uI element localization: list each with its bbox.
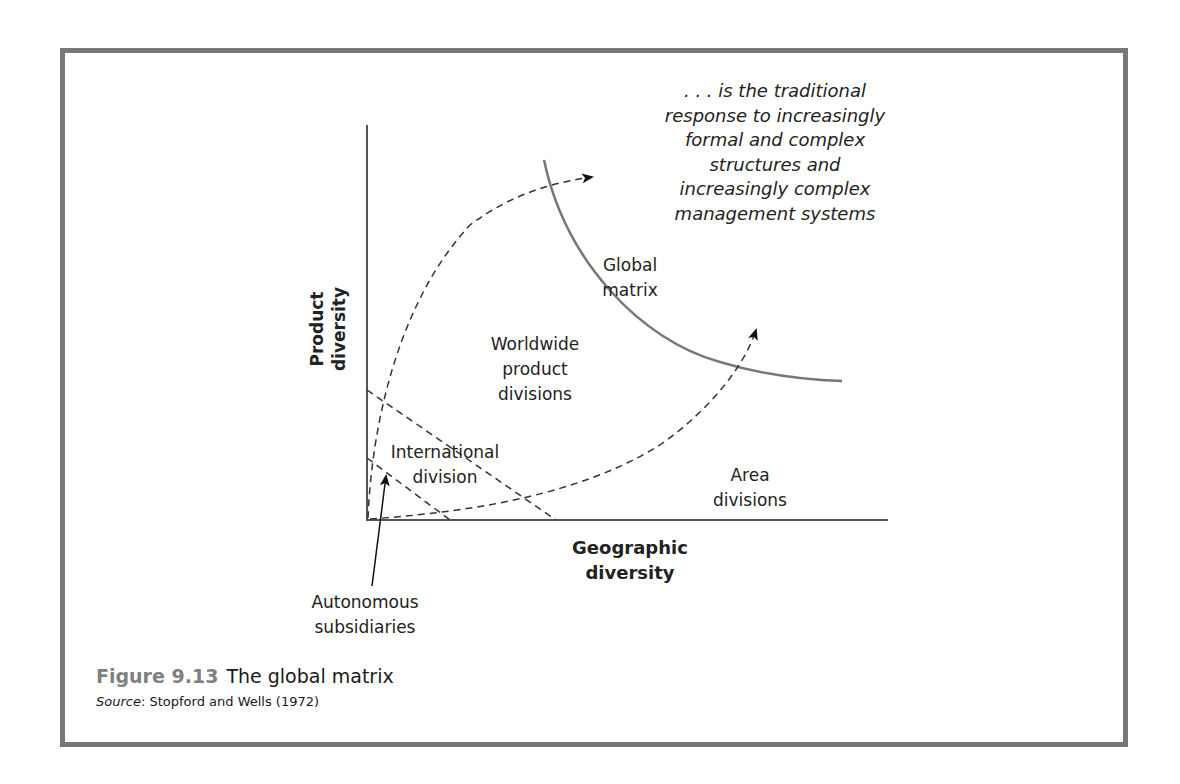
international-division-label: International division: [377, 440, 513, 490]
label-line: subsidiaries: [300, 615, 430, 640]
annotation-line: response to increasingly: [640, 104, 910, 129]
x-axis-label: Geographic diversity: [560, 535, 700, 585]
source-label: Source: [96, 694, 141, 709]
label-line: divisions: [470, 382, 600, 407]
area-divisions-label: Area divisions: [695, 463, 805, 513]
annotation-line: increasingly complex: [640, 177, 910, 202]
label-line: Product: [306, 266, 328, 392]
figure-source: Source: Stopford and Wells (1972): [96, 694, 319, 709]
figure-number: Figure 9.13: [96, 665, 218, 687]
label-line: Worldwide: [470, 332, 600, 357]
label-line: product: [470, 357, 600, 382]
label-line: divisions: [695, 488, 805, 513]
label-line: Autonomous: [300, 590, 430, 615]
label-line: Global: [580, 253, 680, 278]
label-line: Geographic: [560, 535, 700, 560]
annotation-line: formal and complex: [640, 128, 910, 153]
label-line: division: [377, 465, 513, 490]
label-line: diversity: [328, 266, 350, 392]
annotation-line: . . . is the traditional: [640, 79, 910, 104]
label-line: matrix: [580, 278, 680, 303]
label-line: Area: [695, 463, 805, 488]
label-line: diversity: [560, 560, 700, 585]
y-axis-label: Product diversity: [306, 266, 350, 392]
figure-caption: Figure 9.13The global matrix: [96, 665, 394, 687]
worldwide-product-divisions-label: Worldwide product divisions: [470, 332, 600, 407]
annotation-line: management systems: [640, 202, 910, 227]
global-matrix-label: Global matrix: [580, 253, 680, 303]
autonomous-subsidiaries-label: Autonomous subsidiaries: [300, 590, 430, 640]
source-text: : Stopford and Wells (1972): [141, 694, 319, 709]
autonomous-subsidiaries-pointer-arrow: [372, 476, 386, 586]
annotation-text: . . . is the traditional response to inc…: [640, 79, 910, 226]
figure-title: The global matrix: [226, 665, 393, 687]
label-line: International: [377, 440, 513, 465]
annotation-line: structures and: [640, 153, 910, 178]
